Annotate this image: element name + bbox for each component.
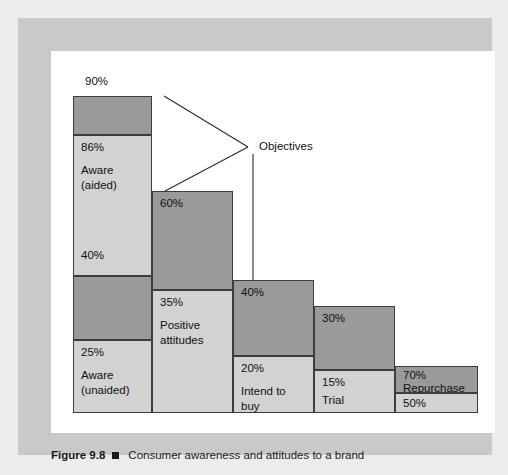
bar-1-unaided-value: 25%	[81, 345, 148, 360]
figure-caption-text: Consumer awareness and attitudes to a br…	[128, 449, 364, 461]
bar-5-segment-current: 50%	[395, 393, 478, 413]
bar-3-objective-value: 40%	[241, 285, 310, 300]
bar-intend-to-buy: 40% 20% Intend to buy	[233, 280, 314, 413]
bar-3-segment-gap-40-20: 40%	[233, 280, 314, 356]
bar-2-current-value: 35%	[160, 295, 229, 310]
bar-1-aided-value: 86%	[81, 140, 148, 155]
figure-number: Figure 9.8	[51, 449, 105, 461]
bar-1-top-value: 90%	[85, 75, 108, 87]
bar-1-segment-aware-aided: 86% Aware (aided) 40%	[73, 135, 152, 276]
bar-4-current-value: 15%	[322, 375, 391, 390]
bar-4-segment-gap-30-15: 30%	[314, 306, 395, 370]
bar-1-segment-gap-90-86	[73, 96, 152, 135]
bar-2-segment-current: 35% Positive attitudes	[152, 290, 233, 413]
bar-4-objective-value: 30%	[322, 311, 391, 326]
bar-2-segment-gap-60-35: 60%	[152, 191, 233, 290]
bar-1-mid-value: 40%	[81, 248, 148, 263]
bar-aware-aided: 86% Aware (aided) 40% 25% Aware (unaided…	[73, 96, 152, 413]
bar-2-objective-value: 60%	[160, 196, 229, 211]
bar-1-unaided-name: Aware (unaided)	[81, 368, 148, 398]
bar-3-current-name: Intend to buy	[241, 384, 310, 414]
objectives-annotation-label: Objectives	[259, 140, 313, 152]
chart-canvas: Objectives 90% 86% Aware (aided) 40% 25%…	[51, 51, 495, 433]
bar-5-current-value: 50%	[403, 396, 474, 411]
figure-page: Objectives 90% 86% Aware (aided) 40% 25%…	[0, 0, 508, 475]
bar-2-current-name: Positive attitudes	[160, 318, 229, 348]
bar-3-current-value: 20%	[241, 361, 310, 376]
square-marker-icon	[112, 452, 119, 459]
figure-caption: Figure 9.8 Consumer awareness and attitu…	[51, 442, 508, 468]
bar-4-segment-current: 15% Trial	[314, 370, 395, 413]
bar-5-segment-gap-70-50: 70% Repurchase	[395, 366, 478, 393]
bar-4-current-name: Trial	[322, 393, 391, 408]
bar-3-segment-current: 20% Intend to buy	[233, 356, 314, 413]
bar-positive-attitudes: 60% 35% Positive attitudes	[152, 191, 233, 413]
figure-panel: Objectives 90% 86% Aware (aided) 40% 25%…	[18, 18, 492, 455]
bar-1-segment-aware-unaided: 25% Aware (unaided)	[73, 340, 152, 413]
bar-1-aided-name: Aware (aided)	[81, 163, 148, 193]
bar-trial: 30% 15% Trial	[314, 306, 395, 413]
bar-repurchase: 70% Repurchase 50%	[395, 366, 478, 413]
bar-1-segment-gap-40-25	[73, 276, 152, 340]
